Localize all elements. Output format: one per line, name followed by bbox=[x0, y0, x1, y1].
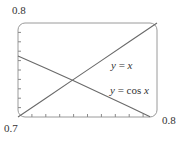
annotation-y-equals-cos-x: y = cos x bbox=[109, 84, 149, 96]
line-y-equals-x bbox=[18, 23, 157, 117]
origin-tick-label: 0.7 bbox=[4, 122, 18, 134]
annotation-y-equals-x: y = x bbox=[110, 59, 133, 71]
y-max-tick-label: 0.8 bbox=[12, 4, 26, 16]
x-max-tick-label: 0.8 bbox=[162, 114, 176, 126]
chart: 0.8 0.7 0.8 y = x y = cos x bbox=[0, 0, 186, 141]
